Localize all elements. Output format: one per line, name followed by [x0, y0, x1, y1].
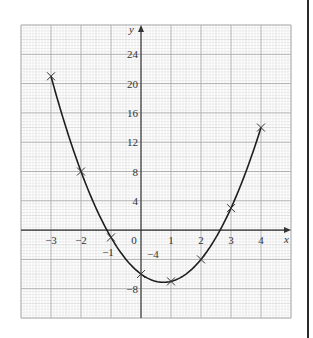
x-tick-label: 4 — [258, 234, 264, 246]
y-tick-label: 24 — [127, 48, 139, 60]
graph-paper-chart: −3−2−1012342420161284−4−8 x y — [0, 0, 313, 338]
page-edge-rule — [307, 0, 309, 338]
y-tick-label: 8 — [133, 166, 139, 178]
x-tick-label: −2 — [75, 234, 87, 246]
y-tick-label: 16 — [127, 107, 139, 119]
y-axis-label: y — [128, 23, 134, 35]
y-tick-label: 4 — [133, 195, 139, 207]
x-tick-label: 1 — [168, 234, 174, 246]
x-tick-label: 2 — [198, 234, 204, 246]
y-tick-label: 20 — [127, 78, 139, 90]
y-tick-label: −4 — [147, 248, 159, 260]
x-tick-label: 3 — [228, 234, 234, 246]
x-axis-label: x — [283, 233, 289, 245]
parabola-plot: −3−2−1012342420161284−4−8 x y — [0, 0, 313, 338]
x-tick-label: 0 — [131, 234, 137, 246]
y-tick-label: 12 — [127, 136, 138, 148]
x-tick-label: −1 — [102, 246, 114, 258]
y-tick-label: −8 — [126, 283, 138, 295]
x-tick-label: −3 — [45, 234, 57, 246]
